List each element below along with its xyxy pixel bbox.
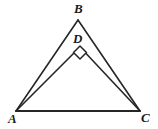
segment-BC	[78, 20, 140, 111]
right-angle-marker-icon	[74, 46, 87, 59]
segment-AB	[16, 20, 78, 111]
vertex-label-A: A	[8, 112, 17, 125]
geometry-figure: B D A C	[0, 0, 158, 129]
vertex-label-D: D	[73, 32, 82, 45]
vertex-label-C: C	[141, 111, 150, 124]
segment-AD	[16, 47, 80, 111]
vertex-label-B: B	[74, 2, 83, 15]
segment-DC	[80, 47, 140, 111]
geometry-canvas	[0, 0, 158, 129]
